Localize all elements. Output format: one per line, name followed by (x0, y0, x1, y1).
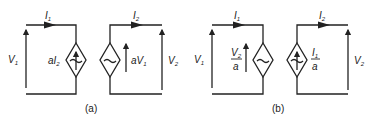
dependent-voltage-source-icon (100, 43, 120, 77)
caption-a: (a) (85, 103, 97, 114)
voltage-label-v1: V1 (8, 54, 18, 66)
panel-b-left-loop: I1 V1 V2 a (194, 10, 273, 94)
voltage-label-v2: V2 (168, 55, 179, 67)
current-label-i1: I1 (45, 10, 51, 22)
current-arrow-icon (131, 22, 143, 29)
current-label-i2: I2 (133, 10, 140, 22)
source-label-av1: aV1 (131, 55, 147, 67)
current-label-i1: I1 (234, 10, 240, 22)
panel-b-right-loop: I2 V2 I1 a (287, 10, 365, 94)
current-label-i2: I2 (319, 10, 326, 22)
source-label-ai2: aI2 (48, 55, 60, 67)
voltage-label-v1: V1 (194, 54, 204, 66)
caption-b: (b) (272, 103, 284, 114)
source-label-denominator: a (233, 61, 239, 72)
panel-a: I1 V1 aI2 I2 V2 aV1 (a) (8, 10, 179, 114)
panel-a-left-loop: I1 V1 aI2 (8, 10, 86, 94)
current-arrow-icon (233, 22, 245, 29)
dependent-voltage-source-icon (253, 43, 273, 77)
current-arrow-icon (318, 22, 330, 29)
current-arrow-icon (44, 22, 56, 29)
source-label-denominator: a (312, 61, 318, 72)
source-label-numerator: V2 (231, 47, 242, 59)
panel-b: I1 V1 V2 a I2 V2 I1 a (194, 10, 365, 114)
source-label-numerator: I1 (312, 47, 318, 59)
panel-a-right-loop: I2 V2 aV1 (100, 10, 179, 94)
voltage-label-v2: V2 (354, 55, 365, 67)
two-port-equivalent-circuits: I1 V1 aI2 I2 V2 aV1 (a) (0, 0, 374, 123)
